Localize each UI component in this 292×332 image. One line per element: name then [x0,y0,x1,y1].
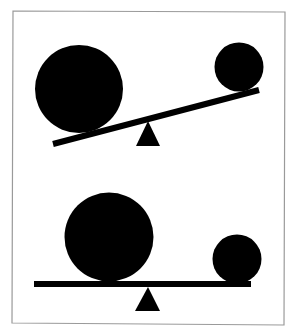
small-ball [215,43,264,92]
large-ball [35,45,123,133]
seesaw-figure [0,0,292,332]
small-ball [213,235,262,284]
large-ball [65,193,154,282]
seesaw-board [34,281,251,287]
